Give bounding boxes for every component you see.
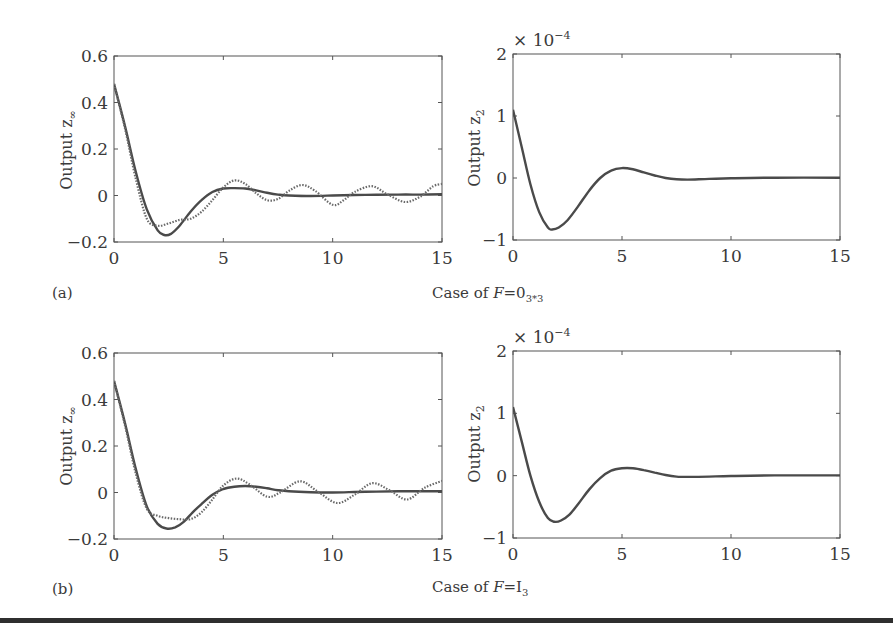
ylabel-b-right: Output z2 [465, 405, 487, 482]
y-tick-label: 0.2 [81, 436, 108, 456]
x-tick-label: 5 [218, 545, 229, 565]
ylabel-a-left: Output z∞ [57, 110, 79, 190]
y-tick-label: 0.6 [81, 46, 108, 66]
x-tick-label: 0 [508, 544, 519, 564]
caption-b: Case of F=I3 [432, 578, 528, 598]
ylabel-b-left: Output z∞ [57, 406, 79, 486]
multiplier-a-right: × 10−4 [513, 29, 571, 50]
series-response [513, 110, 840, 230]
x-tick-label: 15 [431, 545, 453, 565]
y-tick-label: 0.2 [81, 139, 108, 159]
plot-b-left: 051015−0.200.20.40.6 [67, 343, 453, 565]
y-tick-label: 0.6 [81, 343, 108, 363]
y-tick-label: 0.4 [81, 93, 108, 113]
plot-a-left: 051015−0.200.20.40.6 [67, 46, 453, 268]
x-tick-label: 5 [218, 248, 229, 268]
x-tick-label: 10 [720, 544, 742, 564]
y-tick-label: −0.2 [67, 232, 108, 252]
y-tick-label: 2 [496, 44, 507, 64]
x-tick-label: 10 [322, 545, 344, 565]
x-tick-label: 0 [109, 248, 120, 268]
x-tick-label: 5 [617, 544, 628, 564]
x-tick-label: 0 [109, 545, 120, 565]
series-dotted [114, 84, 442, 226]
series-solid [114, 84, 442, 235]
axes-box [513, 54, 840, 240]
series-dotted [114, 381, 442, 520]
axes-box [513, 351, 840, 538]
figure: 051015−0.200.20.40.6 051015−1012 051015−… [0, 0, 893, 633]
y-tick-label: 0 [496, 168, 507, 188]
x-tick-label: 10 [322, 248, 344, 268]
x-tick-label: 15 [829, 246, 851, 266]
plot-b-right: 051015−1012 [482, 341, 851, 564]
axes-box [114, 353, 442, 539]
x-tick-label: 15 [431, 248, 453, 268]
axes-box [114, 56, 442, 242]
y-tick-label: −1 [482, 230, 507, 250]
panel-label-b: (b) [52, 580, 73, 598]
y-tick-label: 0 [97, 483, 108, 503]
y-tick-label: 0 [97, 186, 108, 206]
y-tick-label: 1 [496, 403, 507, 423]
y-tick-label: −0.2 [67, 529, 108, 549]
y-tick-label: −1 [482, 528, 507, 548]
y-tick-label: 0.4 [81, 390, 108, 410]
y-tick-label: 2 [496, 341, 507, 361]
x-tick-label: 5 [617, 246, 628, 266]
caption-a: Case of F=03*3 [432, 284, 543, 304]
panel-label-a: (a) [52, 284, 73, 302]
x-tick-label: 0 [508, 246, 519, 266]
y-tick-label: 1 [496, 106, 507, 126]
ylabel-a-right: Output z2 [465, 109, 487, 186]
y-tick-label: 0 [496, 466, 507, 486]
multiplier-b-right: × 10−4 [513, 326, 571, 347]
x-tick-label: 10 [720, 246, 742, 266]
series-solid [114, 381, 442, 529]
bottom-rule [0, 618, 893, 623]
plot-a-right: 051015−1012 [482, 44, 851, 266]
x-tick-label: 15 [829, 544, 851, 564]
series-response [513, 407, 840, 522]
